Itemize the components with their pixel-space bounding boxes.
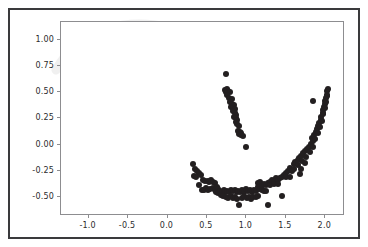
data-point <box>236 202 242 208</box>
data-point <box>279 193 285 199</box>
data-point <box>323 99 329 105</box>
y-tick-label: -0.25 <box>8 165 54 174</box>
x-tick-label: 0.5 <box>199 221 212 230</box>
x-tick-mark <box>245 215 246 218</box>
data-point <box>322 105 328 111</box>
y-tick-mark <box>57 144 60 145</box>
data-point <box>307 149 313 155</box>
y-tick-mark <box>57 170 60 171</box>
x-tick-mark <box>324 215 325 218</box>
data-point <box>324 93 330 99</box>
y-tick-mark <box>57 39 60 40</box>
data-point <box>317 124 323 130</box>
x-tick-mark <box>167 215 168 218</box>
x-tick-label: -1.0 <box>79 221 95 230</box>
y-tick-mark <box>57 91 60 92</box>
data-point <box>265 202 271 208</box>
data-point <box>325 86 331 92</box>
data-point <box>240 133 246 139</box>
x-tick-mark <box>206 215 207 218</box>
data-point <box>310 144 316 150</box>
data-point <box>298 166 304 172</box>
data-point <box>275 181 281 187</box>
data-point <box>243 144 249 150</box>
y-tick-mark <box>57 196 60 197</box>
y-tick-label: 0.75 <box>8 61 54 70</box>
y-tick-label: -0.50 <box>8 192 54 201</box>
x-tick-mark <box>127 215 128 218</box>
y-tick-mark <box>57 117 60 118</box>
data-point <box>319 118 325 124</box>
x-tick-label: 1.0 <box>239 221 252 230</box>
y-tick-label: 0.50 <box>8 87 54 96</box>
plot-area <box>60 21 344 215</box>
data-point <box>303 154 309 160</box>
figure-canvas: 1.000.750.500.250.00-0.25-0.50-1.0-0.50.… <box>0 0 368 247</box>
y-tick-mark <box>57 65 60 66</box>
x-tick-label: 2.0 <box>318 221 331 230</box>
y-tick-label: 0.25 <box>8 113 54 122</box>
data-point <box>315 130 321 136</box>
data-point <box>255 193 261 199</box>
x-tick-label: -0.5 <box>119 221 135 230</box>
data-point <box>302 160 308 166</box>
x-tick-mark <box>88 215 89 218</box>
y-tick-label: 0.00 <box>8 139 54 148</box>
data-point <box>223 71 229 77</box>
data-point <box>287 174 293 180</box>
x-tick-mark <box>285 215 286 218</box>
data-point <box>263 188 269 194</box>
x-tick-label: 0.0 <box>160 221 173 230</box>
data-point <box>310 98 316 104</box>
x-tick-label: 1.5 <box>278 221 291 230</box>
data-point <box>320 111 326 117</box>
data-point <box>312 136 318 142</box>
y-tick-label: 1.00 <box>8 34 54 43</box>
